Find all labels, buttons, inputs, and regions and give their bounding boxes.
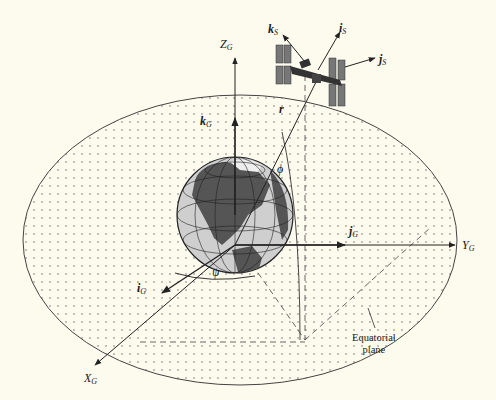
coordinate-diagram [0,0,496,400]
i-s-label: iS [339,22,346,36]
equatorial-plane-label: Equatorial plane [352,332,396,356]
y-axis-label: YG [462,239,474,253]
k-s-label: kS [268,23,278,37]
j-g-label: jG [349,225,358,239]
r-label: r [279,103,284,115]
psi-label: ψ [212,266,219,278]
j-s-label: jS [379,53,386,67]
phi-label: ϕ [277,163,283,175]
k-g-label: kG [200,115,212,129]
z-axis-label: ZG [220,38,232,52]
x-axis-label: XG [84,372,97,386]
i-g-label: iG [137,282,146,296]
satellite [276,45,345,106]
